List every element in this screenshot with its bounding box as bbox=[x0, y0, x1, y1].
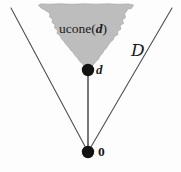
ucone-region-group bbox=[39, 4, 134, 69]
point-origin-marker bbox=[82, 146, 94, 158]
ucone-label-suffix: ) bbox=[102, 21, 107, 36]
figure-canvas: ucone(d) d 0 D bbox=[0, 0, 181, 172]
point-origin-label: 0 bbox=[98, 145, 105, 159]
domain-label: D bbox=[131, 42, 144, 59]
ucone-shaded-region bbox=[39, 4, 134, 69]
ucone-label-prefix: ucone( bbox=[59, 21, 96, 36]
ucone-region-label: ucone(d) bbox=[59, 22, 107, 36]
point-d-label: d bbox=[96, 63, 103, 76]
point-d-marker bbox=[82, 64, 94, 76]
